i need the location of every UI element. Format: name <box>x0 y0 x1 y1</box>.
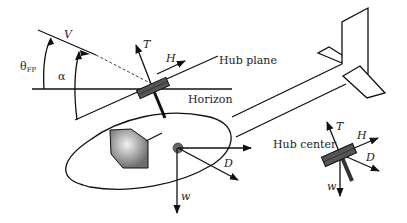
rotor-hub <box>137 77 170 98</box>
inset-drag-label: D <box>365 151 375 164</box>
theta-fp-arrow-icon <box>47 38 54 46</box>
velocity-label: V <box>64 28 73 41</box>
weight-label: w <box>181 190 191 203</box>
inset-weight-label: w <box>327 180 337 193</box>
theta-fp-label: θFP <box>20 60 36 74</box>
hub-plane-label: Hub plane <box>219 54 277 67</box>
inset-thrust-label: T <box>336 120 345 133</box>
h-force-label: H <box>165 52 176 65</box>
canopy-strut <box>146 133 162 141</box>
inset-h-label: H <box>356 129 367 142</box>
alpha-arc <box>75 52 79 120</box>
hub-center-label: Hub center <box>273 138 337 151</box>
vertical-fin <box>342 8 368 74</box>
stabilizer-right <box>343 66 385 98</box>
horizon-label: Horizon <box>188 93 233 106</box>
stabilizer-left <box>318 47 342 63</box>
drag-label: D <box>223 157 233 170</box>
canopy <box>110 129 148 168</box>
thrust-label: T <box>143 38 152 51</box>
helicopter-diagram: θFP α V T H Hub plane Horizon D w Hub ce… <box>0 0 407 223</box>
tail-boom-upper <box>232 64 342 117</box>
thrust-vector <box>136 45 153 89</box>
alpha-label: α <box>58 70 66 83</box>
